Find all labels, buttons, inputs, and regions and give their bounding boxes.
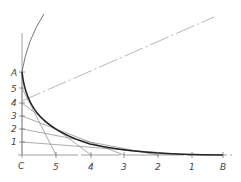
label-v4: 4	[11, 98, 17, 108]
label-v5: 5	[11, 84, 17, 94]
label-v1: 1	[11, 137, 17, 147]
label-h3: 3	[121, 162, 127, 172]
envelope-curve	[22, 72, 223, 155]
label-b: B	[220, 162, 226, 172]
label-h4: 4	[88, 162, 94, 172]
label-c: C	[18, 161, 25, 171]
label-h1: 1	[189, 162, 195, 172]
label-v3: 3	[11, 111, 17, 121]
label-a: A	[10, 68, 17, 78]
tangent-line	[22, 17, 214, 101]
upper-arc	[22, 14, 44, 72]
envelope-curve-diagram: A 5 4 3 2 1 C 5 4 3 2 1 B	[0, 0, 241, 182]
label-h2: 2	[155, 162, 161, 172]
label-v2: 2	[11, 124, 17, 134]
ticks	[19, 72, 223, 158]
construction-lines	[22, 72, 192, 155]
label-h5: 5	[53, 162, 59, 172]
